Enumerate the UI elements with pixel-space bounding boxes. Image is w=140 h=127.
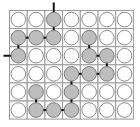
- filled-peg[interactable]: [64, 103, 79, 118]
- empty-peg[interactable]: [100, 30, 115, 45]
- filled-peg[interactable]: [82, 48, 97, 63]
- empty-peg[interactable]: [64, 30, 79, 45]
- empty-peg[interactable]: [11, 67, 26, 82]
- empty-peg[interactable]: [11, 85, 26, 100]
- filled-peg[interactable]: [46, 12, 61, 27]
- empty-peg[interactable]: [64, 48, 79, 63]
- filled-peg[interactable]: [64, 67, 79, 82]
- empty-peg[interactable]: [29, 48, 44, 63]
- filled-peg[interactable]: [46, 30, 61, 45]
- empty-peg[interactable]: [46, 67, 61, 82]
- filled-peg[interactable]: [100, 67, 115, 82]
- empty-peg[interactable]: [46, 85, 61, 100]
- puzzle-board: [0, 0, 140, 127]
- filled-peg[interactable]: [82, 30, 97, 45]
- empty-peg[interactable]: [100, 12, 115, 27]
- empty-peg[interactable]: [117, 85, 132, 100]
- filled-peg[interactable]: [11, 48, 26, 63]
- empty-peg[interactable]: [117, 67, 132, 82]
- empty-peg[interactable]: [11, 103, 26, 118]
- empty-peg[interactable]: [117, 12, 132, 27]
- empty-peg[interactable]: [64, 12, 79, 27]
- filled-peg[interactable]: [82, 67, 97, 82]
- empty-peg[interactable]: [100, 85, 115, 100]
- empty-peg[interactable]: [11, 12, 26, 27]
- empty-peg[interactable]: [82, 12, 97, 27]
- empty-peg[interactable]: [117, 30, 132, 45]
- empty-peg[interactable]: [46, 48, 61, 63]
- empty-peg[interactable]: [100, 103, 115, 118]
- empty-peg[interactable]: [117, 103, 132, 118]
- empty-peg[interactable]: [82, 85, 97, 100]
- filled-peg[interactable]: [11, 30, 26, 45]
- filled-peg[interactable]: [29, 103, 44, 118]
- empty-peg[interactable]: [29, 12, 44, 27]
- empty-peg[interactable]: [117, 48, 132, 63]
- filled-peg[interactable]: [29, 30, 44, 45]
- filled-peg[interactable]: [100, 48, 115, 63]
- filled-peg[interactable]: [46, 103, 61, 118]
- empty-peg[interactable]: [29, 67, 44, 82]
- filled-peg[interactable]: [64, 85, 79, 100]
- empty-peg[interactable]: [82, 103, 97, 118]
- filled-peg[interactable]: [29, 85, 44, 100]
